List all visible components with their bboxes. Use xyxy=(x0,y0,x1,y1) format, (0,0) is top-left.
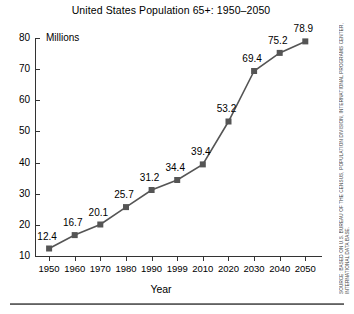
data-point-marker xyxy=(277,50,283,56)
data-point-label: 34.4 xyxy=(165,163,184,173)
source-note: SOURCE: BASED ON U.S. BUREAU OF THE CENS… xyxy=(339,14,353,294)
data-series-layer xyxy=(0,0,354,314)
data-point-label: 16.7 xyxy=(63,218,82,228)
data-point-label: 25.7 xyxy=(114,190,133,200)
footer-divider xyxy=(10,303,344,305)
data-point-marker xyxy=(149,187,155,193)
data-point-label: 53.2 xyxy=(217,104,236,114)
data-point-marker xyxy=(123,204,129,210)
population-line-chart: United States Population 65+: 1950–2050 … xyxy=(0,0,354,314)
data-point-marker xyxy=(251,68,257,74)
data-point-label: 31.2 xyxy=(140,173,159,183)
data-point-marker xyxy=(174,177,180,183)
x-axis-title: Year xyxy=(0,283,322,295)
data-point-label: 69.4 xyxy=(242,54,261,64)
data-point-label: 75.2 xyxy=(268,36,287,46)
data-point-marker xyxy=(302,38,308,44)
data-point-marker xyxy=(226,119,232,125)
data-point-marker xyxy=(72,232,78,238)
data-point-label: 20.1 xyxy=(89,208,108,218)
data-point-marker xyxy=(200,161,206,167)
data-point-label: 78.9 xyxy=(294,24,313,34)
data-point-marker xyxy=(46,246,52,252)
data-point-label: 12.4 xyxy=(37,232,56,242)
series-markers xyxy=(46,38,308,251)
data-point-label: 39.4 xyxy=(191,147,210,157)
data-point-marker xyxy=(97,222,103,228)
series-line xyxy=(49,41,305,248)
